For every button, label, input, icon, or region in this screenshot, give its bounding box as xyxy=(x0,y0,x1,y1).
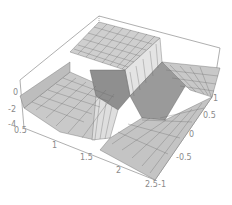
x-tick-label: 2.5 xyxy=(145,180,158,189)
y-tick-label: 0 xyxy=(189,130,194,139)
y-tick-label: 1 xyxy=(213,94,218,103)
z-axis-ticks: 0 -2 -4 xyxy=(8,88,18,129)
z-tick-label: 0 xyxy=(13,88,18,97)
y-tick-label: 0.5 xyxy=(203,111,216,120)
z-tick-label: -4 xyxy=(8,120,16,129)
surface-plot: 0.5 1 1.5 2 2.5 -1 -0.5 0 0.5 1 0 -2 -4 xyxy=(0,0,232,205)
z-tick-label: -2 xyxy=(8,105,16,114)
x-tick-label: 1.5 xyxy=(80,153,93,162)
y-tick-label: -0.5 xyxy=(176,153,192,162)
x-tick-label: 1 xyxy=(52,141,57,150)
x-tick-label: 2 xyxy=(116,166,121,175)
y-tick-label: -1 xyxy=(158,180,166,189)
